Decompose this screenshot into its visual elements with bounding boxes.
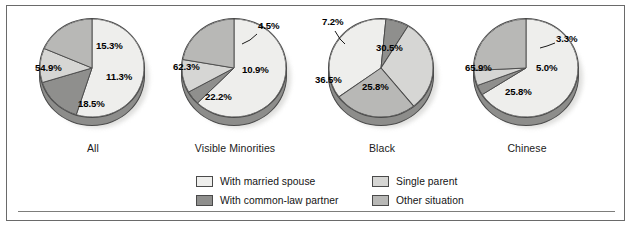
pie-chart-row: 54.9% 15.3% 11.3% 18.5% All: [0, 0, 633, 160]
chart-legend: With married spouse Single parent With c…: [196, 172, 526, 210]
legend-item-married-spouse: With married spouse: [196, 176, 372, 187]
pie-chart-black: 36.5% 7.2% 30.5% 25.8% Black: [307, 14, 457, 160]
legend-swatch-married-spouse: [196, 176, 213, 187]
legend-swatch-other-situation: [372, 195, 389, 206]
legend-label-common-law-partner: With common-law partner: [220, 195, 338, 206]
legend-label-other-situation: Other situation: [396, 195, 464, 206]
value-label-single-parent: 11.3%: [106, 71, 132, 82]
leader-line-common-law: [160, 14, 310, 160]
figure-root: 54.9% 15.3% 11.3% 18.5% All: [0, 0, 633, 228]
value-label-other-situation: 18.5%: [78, 98, 105, 109]
pie-caption-black: Black: [307, 142, 457, 154]
leader-line-common-law: [307, 14, 457, 160]
legend-label-single-parent: Single parent: [396, 176, 457, 187]
legend-item-single-parent: Single parent: [372, 176, 526, 187]
legend-item-common-law-partner: With common-law partner: [196, 195, 372, 206]
pie-caption-visible-minorities: Visible Minorities: [160, 142, 310, 154]
pie-stage-all: [37, 14, 149, 134]
pie-chart-all: 54.9% 15.3% 11.3% 18.5% All: [18, 14, 168, 160]
value-label-married-spouse: 54.9%: [35, 62, 62, 73]
pie-caption-all: All: [18, 142, 168, 154]
legend-label-married-spouse: With married spouse: [220, 176, 315, 187]
legend-swatch-single-parent: [372, 176, 389, 187]
legend-swatch-common-law-partner: [196, 195, 213, 206]
footer-divider: [18, 211, 615, 212]
pie-chart-visible-minorities: 62.3% 4.5% 10.9% 22.2% Visible Minoritie…: [160, 14, 310, 160]
pie-caption-chinese: Chinese: [452, 142, 602, 154]
pie-chart-chinese: 65.9% 3.3% 5.0% 25.8% Chinese: [452, 14, 602, 160]
legend-item-other-situation: Other situation: [372, 195, 526, 206]
value-label-common-law-partner: 15.3%: [96, 40, 123, 51]
leader-line-common-law: [452, 14, 602, 160]
